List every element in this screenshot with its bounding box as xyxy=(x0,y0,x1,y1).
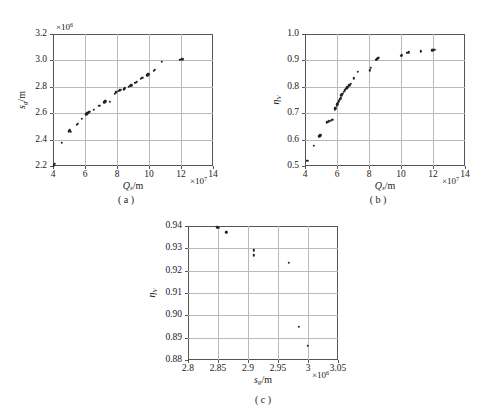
panel-b-x-exponent: ×107 xyxy=(442,176,459,186)
panel-a-y-tick xyxy=(50,166,53,167)
panel-a-y-tick-label: 2.4 xyxy=(0,135,47,145)
panel-c-y-tick xyxy=(185,360,188,361)
panel-a-x-tick-label: 10 xyxy=(144,170,154,180)
panel-c-y-tick-label: 0.89 xyxy=(126,333,182,343)
panel-a-y-tick xyxy=(50,34,53,35)
panel-a-y-tick-label: 3.0 xyxy=(0,55,47,65)
panel-a-y-tick-label: 2.8 xyxy=(0,82,47,92)
panel-c: ×106 ηV sg/m ( c ) 2.82.852.92.9533.050.… xyxy=(126,208,378,416)
panel-c-x-exponent: ×106 xyxy=(312,370,329,380)
panel-c-y-tick xyxy=(185,338,188,339)
panel-c-y-tick-label: 0.88 xyxy=(126,355,182,365)
panel-b-x-tick-label: 4 xyxy=(303,170,308,180)
panel-b-y-tick-label: 0.6 xyxy=(252,135,299,145)
figure-container: ×106 ×107 sg/m Qs/m ( a ) 4681012142.22.… xyxy=(0,0,504,416)
panel-b-y-tick xyxy=(302,34,305,35)
panel-c-y-tick-label: 0.90 xyxy=(126,310,182,320)
panel-c-y-tick xyxy=(185,226,188,227)
panel-b-x-tick-label: 12 xyxy=(428,170,438,180)
panel-b-y-tick xyxy=(302,140,305,141)
panel-b-y-tick-label: 0.8 xyxy=(252,82,299,92)
panel-b-caption: ( b ) xyxy=(370,194,387,205)
panel-a-y-axis-label: sg/m xyxy=(16,91,27,109)
panel-a-y-tick-label: 2.2 xyxy=(0,161,47,171)
panel-b-x-tick-label: 10 xyxy=(396,170,406,180)
panel-a-caption: ( a ) xyxy=(118,194,134,205)
panel-c-y-tick-label: 0.93 xyxy=(126,243,182,253)
panel-a: ×106 ×107 sg/m Qs/m ( a ) 4681012142.22.… xyxy=(0,0,252,208)
panel-b-y-tick-label: 1.0 xyxy=(252,29,299,39)
panel-c-y-tick xyxy=(185,248,188,249)
panel-c-y-tick xyxy=(185,315,188,316)
panel-a-x-tick-label: 8 xyxy=(115,170,120,180)
panel-c-x-axis-label: sg/m xyxy=(254,374,272,385)
panel-b-y-axis-label: ηV xyxy=(270,95,281,104)
panel-a-y-tick xyxy=(50,113,53,114)
panel-b-y-tick-label: 0.9 xyxy=(252,55,299,65)
panel-c-caption: ( c ) xyxy=(255,394,271,405)
panel-a-y-tick xyxy=(50,60,53,61)
panel-b: ×107 ηV Qs/m ( b ) 4681012140.50.60.70.8… xyxy=(252,0,504,208)
panel-c-x-tick-label: 3 xyxy=(306,364,311,374)
panel-b-y-tick xyxy=(302,87,305,88)
panel-c-y-tick xyxy=(185,271,188,272)
panel-a-plot-area xyxy=(53,34,213,166)
panel-b-x-tick-label: 8 xyxy=(367,170,372,180)
panel-c-x-tick-label: 2.9 xyxy=(242,364,254,374)
panel-b-x-tick-label: 6 xyxy=(335,170,340,180)
panel-c-x-tick-label: 3.05 xyxy=(330,364,347,374)
panel-c-x-tick-label: 2.85 xyxy=(210,364,227,374)
panel-b-y-tick xyxy=(302,60,305,61)
panel-a-x-axis-label: Qs/m xyxy=(123,180,143,191)
panel-c-y-tick-label: 0.92 xyxy=(126,266,182,276)
panel-a-y-tick-label: 3.2 xyxy=(0,29,47,39)
panel-a-y-tick xyxy=(50,87,53,88)
panel-a-x-exponent: ×107 xyxy=(190,176,207,186)
panel-b-x-tick-label: 14 xyxy=(460,170,470,180)
panel-c-x-tick-label: 2.8 xyxy=(182,364,194,374)
panel-b-x-axis-label: Qs/m xyxy=(375,180,395,191)
panel-a-y-exponent: ×106 xyxy=(56,22,73,32)
panel-c-x-tick-label: 2.95 xyxy=(270,364,287,374)
panel-c-y-tick xyxy=(185,293,188,294)
panel-a-x-tick-label: 12 xyxy=(176,170,186,180)
panel-a-x-tick-label: 6 xyxy=(83,170,88,180)
panel-b-y-tick xyxy=(302,166,305,167)
panel-a-x-tick-label: 14 xyxy=(208,170,218,180)
panel-a-y-tick-label: 2.6 xyxy=(0,108,47,118)
panel-b-y-tick-label: 0.7 xyxy=(252,108,299,118)
panel-b-y-tick-label: 0.5 xyxy=(252,161,299,171)
panel-c-y-tick-label: 0.91 xyxy=(126,288,182,298)
panel-b-plot-area xyxy=(305,34,465,166)
panel-b-y-tick xyxy=(302,113,305,114)
panel-a-x-tick-label: 4 xyxy=(51,170,56,180)
panel-a-y-tick xyxy=(50,140,53,141)
panel-c-y-tick-label: 0.94 xyxy=(126,221,182,231)
